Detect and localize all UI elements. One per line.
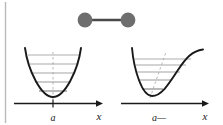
anharmonic-x-axis-label: x: [202, 110, 208, 122]
potential-energy-figure: a x a— x: [0, 0, 223, 125]
atom-left-icon: [78, 13, 93, 28]
harmonic-x-axis-label: x: [96, 110, 102, 122]
figure-canvas: a x a— x: [0, 0, 223, 125]
anharmonic-equilibrium-label: a—: [152, 112, 166, 123]
atom-right-icon: [121, 13, 136, 28]
harmonic-equilibrium-label: a: [51, 112, 56, 123]
